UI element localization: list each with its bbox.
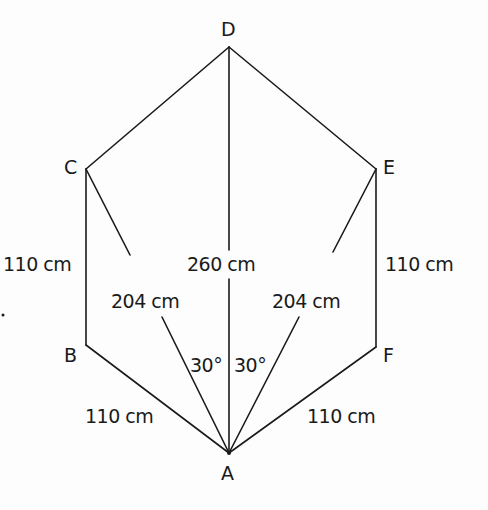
measure-ef: 110 cm [385,255,453,274]
vertex-label-a: A [221,464,234,483]
vertex-label-d: D [221,20,236,39]
edge-de [229,47,376,169]
vertex-label-e: E [383,158,395,177]
edge-ea-upper [333,169,376,252]
vertex-label-c: C [64,158,77,177]
measure-ea: 204 cm [272,292,340,311]
edge-ea-lower [229,317,299,453]
measure-cb: 110 cm [3,255,71,274]
edge-ca-upper [86,169,130,255]
angle-cad: 30° [190,356,222,375]
measure-da: 260 cm [187,255,255,274]
measure-ca: 204 cm [111,292,179,311]
vertex-label-b: B [64,346,77,365]
vertex-label-f: F [383,346,394,365]
measure-ba: 110 cm [85,407,153,426]
edge-ca-lower [162,317,229,453]
edge-dc [86,47,229,169]
angle-dae: 30° [234,356,266,375]
measure-fa: 110 cm [307,407,375,426]
